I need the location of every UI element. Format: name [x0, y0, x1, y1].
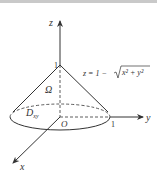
x-axis-label: x: [19, 161, 25, 172]
cone-edge-left: [13, 65, 60, 112]
origin-label: O: [61, 119, 68, 129]
z-axis-label: z: [48, 17, 53, 28]
x-axis: [13, 117, 60, 163]
base-ellipse-front: [10, 117, 110, 130]
domain-label: Dxy: [25, 107, 39, 119]
y-axis-label: y: [145, 112, 151, 123]
surface-equation-radicand: x² + y²: [121, 68, 144, 77]
region-omega-label: Ω: [45, 84, 52, 95]
surface-equation-lhs: z = 1 −: [82, 69, 107, 78]
cone-diagram: z 1 y 1 x O Ω Dxy z = 1 − x² + y²: [0, 0, 157, 183]
z-tick-label: 1: [54, 61, 58, 70]
y-tick-label: 1: [111, 120, 115, 129]
domain-label-sub: xy: [32, 113, 39, 119]
